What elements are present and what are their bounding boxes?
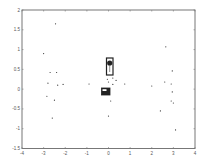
y-tick-label: -1 [16,126,20,131]
x-tick-label: -1 [85,151,89,156]
data-point [55,23,56,24]
data-point [56,72,57,73]
data-point [165,46,166,47]
data-point [124,83,125,84]
data-point [47,83,48,84]
y-tick-label: 1 [17,47,20,52]
data-point [50,72,51,73]
data-point [112,84,113,85]
lower-object [102,88,111,95]
data-point [108,81,109,82]
data-point [108,115,109,116]
data-point [43,53,44,54]
data-point [52,117,53,118]
upper-object [107,58,114,75]
data-point [171,83,172,84]
data-point [112,77,113,78]
data-point [164,81,165,82]
data-point [115,80,116,81]
x-tick-label: 0 [107,151,110,156]
y-tick-label: 0 [17,87,20,92]
scatter-plot: -4-3-2-101234 -1.5-1-0.500.511.52 [0,0,206,165]
y-tick-label: 2 [17,8,20,13]
data-point [88,83,89,84]
x-tick-label: 1 [129,151,132,156]
axes-box [22,10,195,149]
data-point [175,129,176,130]
data-point [57,85,58,86]
data-point [173,102,174,103]
y-tick-label: 1.5 [14,27,21,32]
x-tick-label: -2 [63,151,67,156]
data-point [160,110,161,111]
data-point [62,84,63,85]
y-tick-label: 0.5 [14,67,21,72]
x-tick-label: -4 [20,151,24,156]
y-tick-label: -0.5 [12,106,20,111]
y-tick-label: -1.5 [12,146,20,151]
data-point [171,100,172,101]
data-point [46,96,47,97]
data-point [107,79,108,80]
x-tick-label: 4 [194,151,197,156]
x-tick-label: 3 [172,151,175,156]
x-tick-label: 2 [150,151,153,156]
data-point [54,100,55,101]
data-point [172,70,173,71]
x-tick-label: -3 [42,151,46,156]
data-point [172,91,173,92]
data-point [151,85,152,86]
data-point [110,100,111,101]
